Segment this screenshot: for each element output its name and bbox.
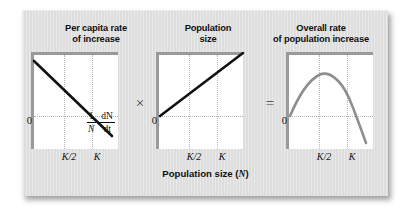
x-tick-label-khalf-panel2: K/2 — [181, 151, 207, 162]
panel-title-line1: Per capita rate — [33, 23, 159, 34]
curve-population-size — [159, 55, 243, 149]
panel-title-per-capita-rate: Per capita rate of increase — [33, 23, 159, 45]
panel-title-population-size: Population size — [163, 23, 253, 45]
multiplication-operator: × — [131, 95, 149, 112]
panel-title-line1: Overall rate — [255, 23, 387, 34]
y-axis-zero-label-panel3: 0 — [277, 115, 287, 126]
x-tick-label-khalf-panel1: K/2 — [56, 151, 82, 162]
fraction-denominator: dt — [101, 123, 112, 134]
panel-title-line1: Population — [163, 23, 253, 34]
x-tick-label-k-panel1: K — [84, 151, 110, 162]
fraction-denominator: N — [86, 123, 96, 134]
fraction-one-over-n: 1 N — [86, 111, 96, 134]
y-axis-zero-label-panel1: 0 — [22, 115, 32, 126]
panel-title-line2: size — [163, 34, 253, 45]
panel-title-line2: of increase — [33, 34, 159, 45]
x-axis-label-text: Population size ( — [162, 168, 238, 179]
figure-card: Per capita rate of increase Population s… — [22, 10, 388, 196]
plot-overall-rate: dN dt — [289, 55, 373, 149]
curve-per-capita-rate — [34, 55, 118, 149]
x-tick-label-k-panel2: K — [209, 151, 235, 162]
plot-population-size: N — [159, 55, 243, 149]
panel-title-line2: of population increase — [255, 34, 387, 45]
x-axis-label: Population size (N) — [23, 168, 388, 179]
fraction-numerator: dN — [99, 111, 115, 123]
x-tick-label-k-panel3: K — [339, 151, 365, 162]
fraction-numerator: 1 — [87, 111, 96, 123]
fraction-dn-over-dt: dN dt — [99, 111, 115, 134]
x-axis-label-close: ) — [245, 168, 248, 179]
formula-per-capita-rate: 1 N dN dt — [86, 111, 115, 134]
equals-operator: = — [261, 95, 279, 112]
plot-per-capita-rate: 1 N dN dt — [34, 55, 118, 149]
x-tick-label-khalf-panel3: K/2 — [311, 151, 337, 162]
curve-overall-rate — [289, 55, 373, 149]
y-axis-zero-label-panel2: 0 — [147, 115, 157, 126]
panel-title-overall-rate: Overall rate of population increase — [255, 23, 387, 45]
